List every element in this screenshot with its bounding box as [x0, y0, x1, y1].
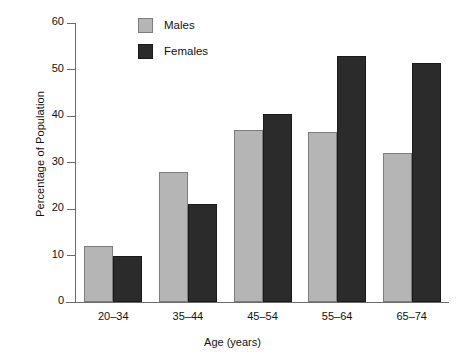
legend-item-females: Females — [138, 38, 208, 64]
bar-males-65-74 — [383, 153, 412, 302]
y-axis-tick-label: 10 — [38, 248, 64, 260]
bar-males-55-64 — [308, 132, 337, 302]
y-axis-tick-label: 60 — [38, 15, 64, 27]
y-axis-tick — [67, 302, 75, 303]
legend-swatch-icon-females — [138, 44, 153, 59]
bar-females-55-64 — [337, 56, 366, 302]
y-axis-tick — [67, 69, 75, 70]
bar-males-35-44 — [159, 172, 188, 302]
legend-swatch-icon-males — [138, 18, 153, 33]
legend-label: Males — [164, 19, 195, 31]
bar-males-20-34 — [84, 246, 113, 302]
y-axis-tick-label: 40 — [38, 108, 64, 120]
x-axis-tick-label: 45–54 — [223, 310, 303, 322]
x-axis-tick-label: 55–64 — [297, 310, 377, 322]
bar-females-65-74 — [412, 63, 441, 302]
x-axis-tick-label: 65–74 — [372, 310, 452, 322]
plot-area — [76, 23, 449, 302]
y-axis-tick — [67, 209, 75, 210]
legend-label: Females — [164, 45, 208, 57]
y-axis-tick — [67, 116, 75, 117]
bar-males-45-54 — [234, 130, 263, 302]
bar-females-35-44 — [188, 204, 217, 302]
chart-legend: MalesFemales — [138, 12, 208, 64]
bar-females-45-54 — [263, 114, 292, 302]
x-axis-tick-label: 20–34 — [73, 310, 153, 322]
y-axis-tick — [67, 255, 75, 256]
y-axis-tick-label: 20 — [38, 201, 64, 213]
y-axis-tick-label: 50 — [38, 62, 64, 74]
x-axis-line — [66, 302, 449, 303]
x-axis-tick-label: 35–44 — [148, 310, 228, 322]
y-axis-tick-label: 30 — [38, 155, 64, 167]
y-axis-tick — [67, 162, 75, 163]
legend-item-males: Males — [138, 12, 208, 38]
y-axis-tick — [67, 23, 75, 24]
x-axis-title: Age (years) — [0, 336, 465, 348]
bar-females-20-34 — [113, 256, 142, 303]
bar-chart: Percentage of Population 0102030405060 2… — [0, 0, 465, 357]
y-axis-tick-label: 0 — [38, 294, 64, 306]
